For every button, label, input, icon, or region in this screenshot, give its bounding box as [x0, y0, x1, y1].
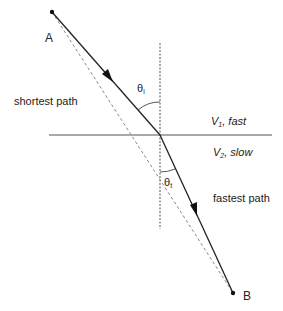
fastest-path-label: fastest path	[213, 193, 270, 204]
refracted-arrowhead-icon	[190, 202, 197, 216]
point-b-dot	[231, 291, 235, 295]
shortest-path-label: shortest path	[14, 96, 78, 107]
theta-i-subscript: i	[143, 88, 145, 95]
point-a-label: A	[45, 32, 53, 44]
point-b-label: B	[243, 290, 251, 302]
medium-1-desc: , fast	[222, 115, 246, 127]
theta-t-subscript: t	[170, 182, 172, 189]
medium-2-desc: , slow	[224, 146, 252, 158]
theta-t-arc	[160, 169, 175, 172]
shortest-path-line	[52, 12, 233, 293]
medium-1-label: V1, fast	[211, 116, 246, 128]
theta-i-arc	[138, 102, 160, 110]
point-a-dot	[50, 10, 54, 14]
medium-2-label: V2, slow	[213, 147, 252, 159]
theta-i-label: θi	[137, 83, 145, 95]
refraction-diagram: A B shortest path fastest path θi θt V1,…	[0, 0, 283, 311]
theta-t-label: θt	[164, 177, 172, 189]
